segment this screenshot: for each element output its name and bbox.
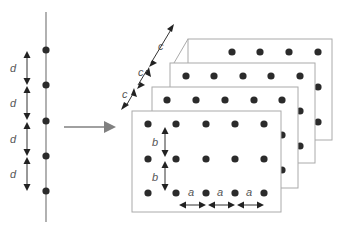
a-label-2: a xyxy=(217,186,223,198)
diagram-canvas: d d d d xyxy=(0,0,345,233)
one-d-chain: d d d d xyxy=(10,12,50,222)
three-d-lattice: b b a a a xyxy=(121,24,332,212)
c-label-3: c xyxy=(158,40,164,52)
a-label-3: a xyxy=(246,186,252,198)
c-label-2: c xyxy=(138,66,144,78)
lattice-plane-1 xyxy=(132,111,281,212)
d-label-3: d xyxy=(10,133,17,145)
transform-arrow-icon xyxy=(64,121,116,133)
d-label-2: d xyxy=(10,97,17,109)
c-label-1: c xyxy=(122,88,128,100)
b-label-2: b xyxy=(152,171,158,183)
b-label-1: b xyxy=(152,136,158,148)
a-label-1: a xyxy=(188,186,194,198)
d-label-1: d xyxy=(10,62,17,74)
lattice-diagram: d d d d xyxy=(0,0,345,233)
d-label-4: d xyxy=(10,168,17,180)
